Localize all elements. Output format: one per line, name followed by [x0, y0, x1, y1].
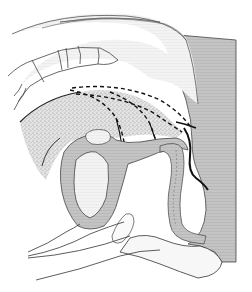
anatomical-diagram: [0, 0, 252, 292]
upper-lobe: [86, 130, 111, 145]
